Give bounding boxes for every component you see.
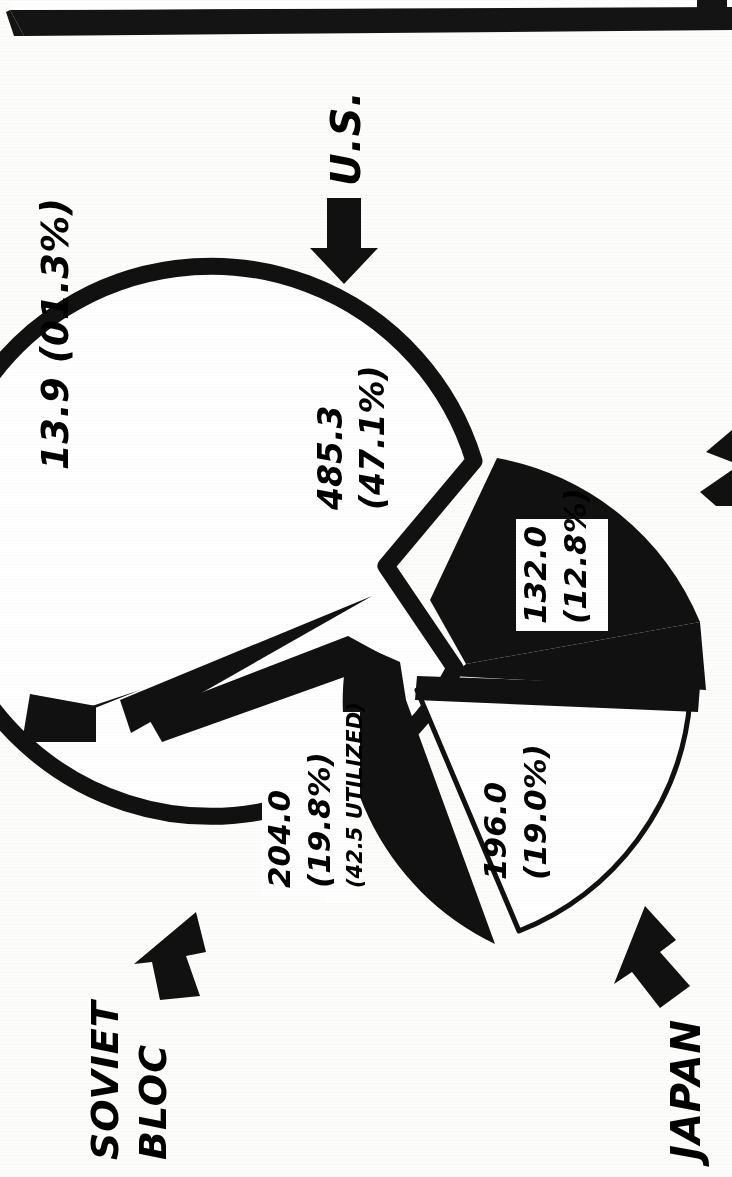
soviet-slice-percent: (19.8%): [301, 752, 337, 888]
japan-slice-percent: (19.0%): [517, 744, 553, 880]
slice132-percent: (12.8%): [557, 488, 593, 624]
soviet-callout-line2: BLOC: [131, 1044, 175, 1160]
japan-slice-value: 196.0: [477, 782, 513, 880]
us-slice-value: 485.3: [311, 406, 350, 511]
sliver-label-text: 13.9 (01.3%): [34, 198, 77, 470]
us-callout-text: U.S.: [323, 90, 369, 186]
slice132-value: 132.0: [517, 526, 553, 624]
arrow-down-icon: [310, 198, 378, 284]
japan-callout: JAPAN: [663, 1019, 709, 1167]
chart-canvas: 13.9 (01.3%) U.S. JAPAN SOVIET BLOC 485.…: [0, 0, 732, 1177]
arrow-up-right-icon: [134, 912, 206, 1000]
pie-chart-figure: 13.9 (01.3%) U.S. JAPAN SOVIET BLOC 485.…: [0, 0, 732, 1177]
soviet-slice-note: (42.5 UTILIZED): [343, 702, 367, 888]
soviet-callout: SOVIET BLOC: [83, 998, 175, 1160]
scan-edge-bar: [6, 0, 732, 36]
soviet-slice-value: 204.0: [261, 790, 297, 888]
us-slice-percent: (47.1%): [353, 365, 392, 510]
us-callout: U.S.: [323, 90, 369, 186]
arrow-up-left-icon: [614, 906, 690, 1008]
soviet-callout-line1: SOVIET: [83, 998, 127, 1160]
japan-callout-text: JAPAN: [663, 1019, 709, 1167]
sliver-label: 13.9 (01.3%): [34, 198, 77, 470]
arrow-left-icon-right-edge: [700, 430, 732, 506]
